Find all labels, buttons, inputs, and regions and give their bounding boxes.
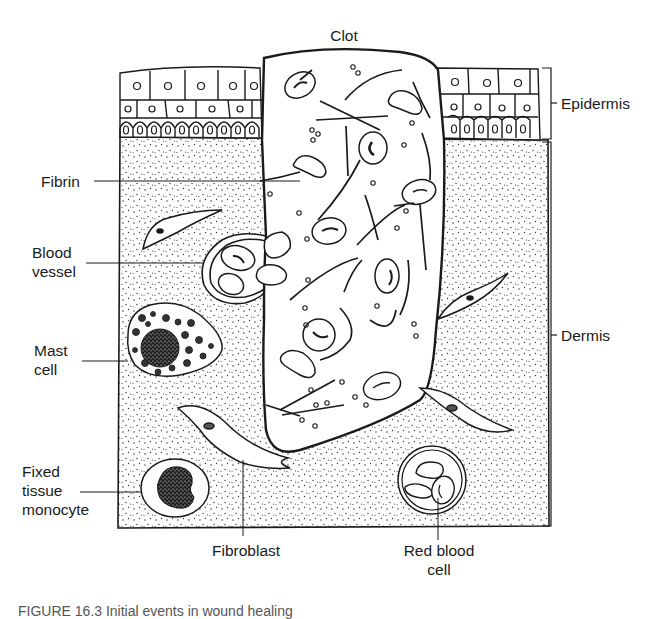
label-clot: Clot — [314, 26, 374, 45]
label-blood-vessel-line2: vessel — [32, 262, 76, 281]
label-fixed-line3: monocyte — [22, 500, 89, 519]
label-epidermis: Epidermis — [561, 94, 630, 113]
label-blood-vessel-line1: Blood — [32, 243, 76, 262]
label-fixed-line1: Fixed — [22, 462, 89, 481]
label-fixed-tissue-monocyte: Fixed tissue monocyte — [22, 462, 89, 519]
label-mast-cell: Mast cell — [34, 341, 68, 379]
label-dermis: Dermis — [561, 326, 610, 345]
label-fixed-line2: tissue — [22, 481, 89, 500]
label-rbc-line2: cell — [394, 560, 484, 579]
epidermis-bracket — [542, 68, 557, 139]
label-fibrin: Fibrin — [41, 172, 80, 191]
label-rbc-line1: Red blood — [394, 541, 484, 560]
figure-caption: FIGURE 16.3 Initial events in wound heal… — [18, 603, 293, 619]
label-red-blood-cell: Red blood cell — [394, 541, 484, 579]
fixed-tissue-monocyte — [141, 459, 209, 517]
label-blood-vessel: Blood vessel — [32, 243, 76, 281]
label-mast-cell-line2: cell — [34, 360, 68, 379]
rbc-vessel — [398, 446, 466, 514]
label-fibroblast: Fibroblast — [212, 541, 280, 560]
label-mast-cell-line1: Mast — [34, 341, 68, 360]
